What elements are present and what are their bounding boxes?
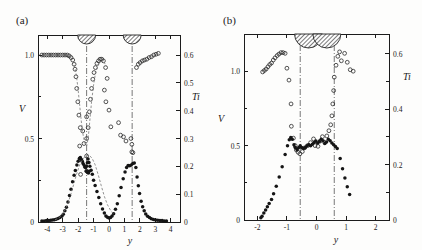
x-tick-label: 2	[138, 225, 142, 234]
x-tick-label: -1	[90, 225, 96, 234]
panel-a: (a) -4-3-2-10123400.51.000.10.20.30.40.5…	[0, 0, 211, 250]
panel-b: (b) -2-101200.51.000.20.40.6VTiy	[211, 0, 422, 250]
x-tick-label: -2	[75, 225, 81, 234]
data-point-filled	[343, 176, 347, 180]
data-point-open	[131, 151, 135, 155]
data-point-open	[287, 78, 291, 82]
x-tick-label: -4	[44, 225, 50, 234]
data-point-open	[105, 77, 109, 81]
data-point-filled	[93, 184, 97, 188]
data-point-filled	[165, 219, 169, 223]
y2-tick-label: 0	[184, 218, 188, 227]
y-tick-label: 1.0	[231, 67, 241, 76]
data-point-filled	[85, 165, 89, 169]
plot-frame	[244, 34, 389, 220]
data-point-filled	[141, 205, 145, 209]
data-point-open	[104, 100, 108, 104]
x-tick-label: -1	[284, 223, 290, 232]
y2-tick-label: 0	[393, 216, 397, 225]
data-point-filled	[101, 207, 105, 211]
plot-frame	[38, 35, 180, 222]
data-point-open	[285, 66, 289, 70]
y2-tick-label: 0.2	[184, 162, 194, 171]
panel-b-plot: -2-101200.51.000.20.40.6VTiy	[211, 0, 422, 250]
data-point-filled	[346, 185, 350, 189]
data-point-filled	[121, 177, 125, 181]
data-point-filled	[74, 169, 78, 173]
x-tick-label: -2	[254, 223, 260, 232]
data-point-filled	[260, 214, 264, 218]
data-point-open	[343, 51, 347, 55]
data-point-open	[332, 89, 336, 93]
data-point-filled	[286, 144, 290, 148]
data-point-filled	[280, 165, 284, 169]
series-open-circles	[261, 50, 355, 156]
x-tick-label: 1	[123, 225, 127, 234]
data-point-open	[336, 54, 340, 58]
data-point-open	[330, 114, 334, 118]
data-point-filled	[338, 157, 342, 161]
data-point-filled	[137, 184, 141, 188]
data-point-filled	[116, 202, 120, 206]
series-filled-circles	[40, 156, 168, 223]
data-point-filled	[71, 180, 75, 184]
data-point-open	[345, 60, 349, 64]
data-point-filled	[91, 172, 95, 176]
y-tick-label: 0	[30, 218, 34, 227]
data-point-filled	[92, 179, 96, 183]
data-point-open	[156, 51, 160, 55]
y2-tick-label: 0.5	[184, 79, 194, 88]
data-point-filled	[117, 194, 121, 198]
data-point-open	[122, 135, 126, 139]
data-point-open	[124, 139, 128, 143]
data-point-open	[117, 121, 121, 125]
data-point-filled	[114, 207, 118, 211]
y2-axis-title: Ti	[403, 71, 411, 82]
x-tick-label: 2	[374, 223, 378, 232]
figure-container: (a) -4-3-2-10123400.51.000.10.20.30.40.5…	[0, 0, 422, 250]
data-point-filled	[134, 166, 138, 170]
data-point-open	[329, 123, 333, 127]
y-axis-title: V	[218, 113, 226, 124]
y2-tick-label: 0.4	[393, 105, 403, 114]
y2-axis-title: Ti	[192, 91, 200, 102]
data-point-filled	[97, 196, 101, 200]
data-point-filled	[277, 175, 281, 179]
data-point-filled	[142, 209, 146, 213]
data-point-open	[154, 52, 158, 56]
hatched-semicircle-marker	[123, 35, 141, 44]
data-point-filled	[275, 184, 279, 188]
data-point-filled	[87, 161, 91, 165]
data-point-filled	[138, 192, 142, 196]
data-point-filled	[270, 198, 274, 202]
panel-a-label: (a)	[16, 14, 28, 26]
data-point-filled	[133, 161, 137, 165]
data-point-open	[109, 125, 113, 129]
data-point-open	[327, 129, 331, 133]
y2-tick-label: 0.4	[184, 107, 194, 116]
x-tick-label: 0	[107, 225, 111, 234]
panel-a-plot: -4-3-2-10123400.51.000.10.20.30.40.50.6V…	[0, 0, 211, 250]
y-tick-label: 0.5	[231, 142, 241, 151]
x-tick-label: -3	[60, 225, 66, 234]
y2-tick-label: 0.6	[184, 51, 194, 60]
x-tick-label: 0	[315, 223, 319, 232]
x-axis-title: y	[333, 234, 339, 245]
data-point-filled	[123, 170, 127, 174]
hatched-semicircle-marker	[313, 34, 341, 48]
data-point-filled	[266, 205, 270, 209]
y-tick-label: 1.0	[25, 51, 35, 60]
data-point-filled	[135, 175, 139, 179]
data-point-filled	[89, 168, 93, 172]
data-point-open	[78, 144, 82, 148]
x-axis-title: y	[127, 235, 133, 246]
data-point-filled	[86, 157, 90, 161]
x-tick-label: 4	[169, 225, 173, 234]
data-point-filled	[88, 165, 92, 169]
series-open-circles	[40, 51, 160, 176]
data-point-filled	[348, 193, 352, 197]
y2-tick-label: 0.1	[184, 190, 194, 199]
y2-tick-label: 0.2	[393, 161, 403, 170]
series-filled-circles	[259, 136, 351, 220]
data-point-filled	[95, 190, 99, 194]
